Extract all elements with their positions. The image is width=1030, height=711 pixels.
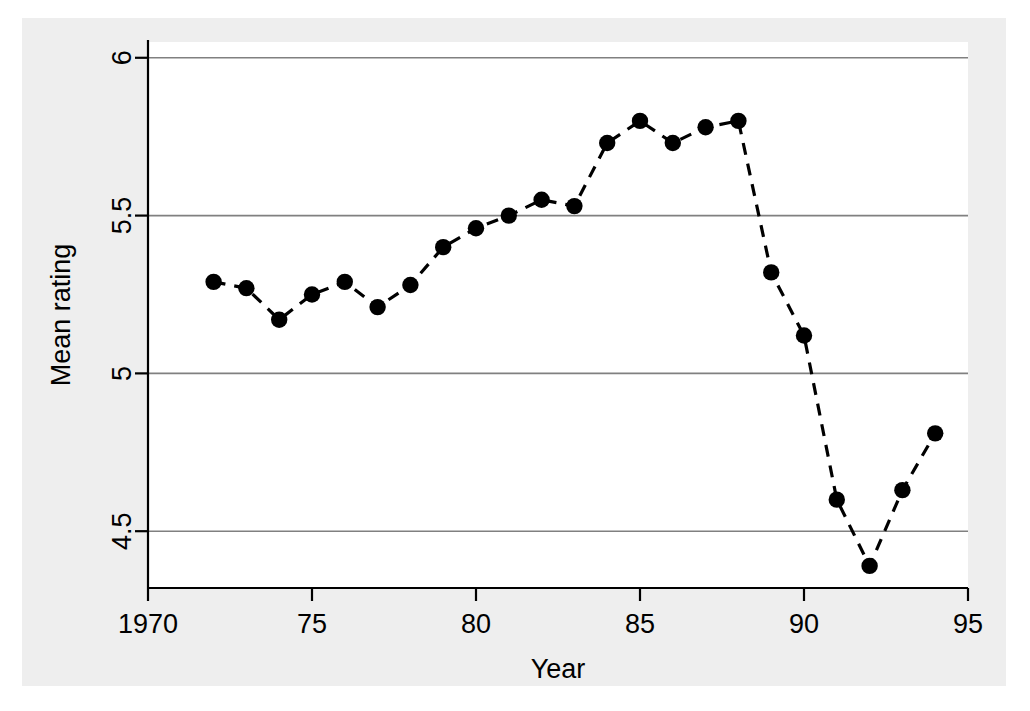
data-point-marker — [238, 280, 254, 296]
data-point-marker — [763, 264, 779, 280]
x-tick-label: 80 — [461, 609, 491, 639]
data-point-marker — [402, 277, 418, 293]
data-point-marker — [468, 220, 484, 236]
data-point-marker — [927, 425, 943, 441]
data-point-marker — [337, 274, 353, 290]
data-point-marker — [796, 327, 812, 343]
data-point-marker — [861, 558, 877, 574]
line-chart: 4.555.56 19707580859095 Mean rating Year — [22, 18, 1006, 686]
x-axis-ticks — [148, 588, 968, 601]
y-tick-label: 6 — [107, 50, 137, 65]
data-point-marker — [271, 312, 287, 328]
data-point-marker — [697, 119, 713, 135]
data-point-marker — [533, 192, 549, 208]
data-point-marker — [730, 113, 746, 129]
x-tick-label: 95 — [953, 609, 983, 639]
data-point-marker — [205, 274, 221, 290]
y-tick-label: 5.5 — [107, 197, 137, 235]
y-axis-title: Mean rating — [46, 244, 76, 387]
data-point-marker — [566, 198, 582, 214]
x-tick-label: 75 — [297, 609, 327, 639]
plot-panel — [148, 42, 968, 588]
data-point-marker — [369, 299, 385, 315]
data-point-marker — [599, 135, 615, 151]
x-axis-tick-labels: 19707580859095 — [118, 609, 983, 639]
data-point-marker — [632, 113, 648, 129]
x-tick-label: 85 — [625, 609, 655, 639]
figure-background: 4.555.56 19707580859095 Mean rating Year — [22, 18, 1006, 686]
x-axis-title: Year — [531, 654, 586, 684]
data-point-marker — [829, 491, 845, 507]
data-point-marker — [304, 286, 320, 302]
y-axis-ticks — [135, 58, 148, 531]
data-point-marker — [501, 207, 517, 223]
data-point-marker — [894, 482, 910, 498]
data-point-marker — [665, 135, 681, 151]
y-tick-label: 4.5 — [107, 512, 137, 550]
y-axis-tick-labels: 4.555.56 — [107, 50, 137, 550]
x-tick-label: 1970 — [118, 609, 178, 639]
data-point-marker — [435, 239, 451, 255]
y-tick-label: 5 — [107, 366, 137, 381]
x-tick-label: 90 — [789, 609, 819, 639]
